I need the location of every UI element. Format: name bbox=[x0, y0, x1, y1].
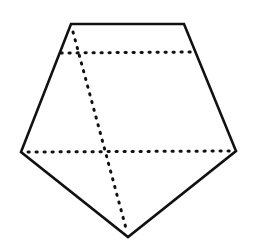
upper-horizontal-chord bbox=[61, 52, 195, 53]
lower-horizontal-chord bbox=[28, 151, 230, 152]
pentagon-diagram bbox=[0, 0, 253, 240]
pentagon-outline bbox=[21, 24, 236, 237]
slanted-line bbox=[73, 32, 127, 232]
diagram-canvas bbox=[0, 0, 253, 240]
